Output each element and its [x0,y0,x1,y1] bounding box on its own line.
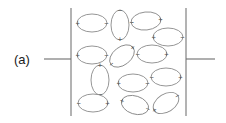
dipole: +− [75,14,109,32]
positive-charge-glyph: + [118,35,123,44]
dipole: +− [117,92,153,119]
positive-charge-glyph: + [178,73,183,82]
dipole-outline [153,28,183,46]
dielectric-dipole-figure: (a) +−+−+−+−+−+−+−+−+−+−+−+−+− [0,0,226,123]
dipole: +− [148,87,185,119]
dipole: +− [111,6,129,44]
negative-charge-glyph: − [149,73,154,82]
negative-charge-glyph: − [180,33,185,42]
dipole-outline [118,74,148,92]
negative-charge-glyph: − [76,99,81,108]
negative-charge-glyph: − [104,19,109,28]
negative-charge-glyph: − [104,51,109,60]
figure-canvas: (a) +−+−+−+−+−+−+−+−+−+−+−+−+− [0,0,226,123]
dipole-outline [77,14,107,32]
dipole-outline [151,68,181,86]
positive-charge-glyph: + [164,50,169,59]
negative-charge-glyph: − [118,6,123,15]
dipole-outline [77,46,107,64]
dipole: +− [149,68,183,86]
dipole: +− [75,46,109,64]
dipole: +− [116,74,150,92]
dipole: +− [135,45,169,63]
dipole-outline [78,94,108,112]
dipole: +− [151,28,185,46]
positive-charge-glyph: + [75,51,80,60]
dipole: +− [129,10,164,31]
dipole-layer: +−+−+−+−+−+−+−+−+−+−+−+−+− [75,6,185,119]
positive-charge-glyph: + [75,19,80,28]
negative-charge-glyph: − [135,50,140,59]
positive-charge-glyph: + [98,61,103,70]
dipole-outline [130,10,162,31]
dipole: +− [76,94,110,112]
positive-charge-glyph: + [158,15,164,24]
positive-charge-glyph: + [116,79,121,88]
panel-label: (a) [14,52,30,67]
dipole: +− [91,61,109,99]
dipole-outline [137,45,167,63]
positive-charge-glyph: + [151,33,156,42]
positive-charge-glyph: + [105,99,110,108]
